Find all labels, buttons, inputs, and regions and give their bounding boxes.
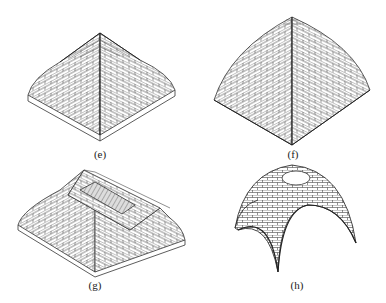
label-f: (f) bbox=[288, 148, 299, 160]
figure-g-vault bbox=[18, 170, 185, 277]
vault-diagrams bbox=[0, 0, 386, 303]
figure-h-dome bbox=[235, 165, 356, 272]
figure-e-vault bbox=[28, 33, 175, 141]
label-e: (e) bbox=[94, 148, 106, 160]
label-g: (g) bbox=[89, 279, 102, 291]
label-h: (h) bbox=[291, 279, 304, 291]
figure-f-vault bbox=[214, 17, 370, 145]
